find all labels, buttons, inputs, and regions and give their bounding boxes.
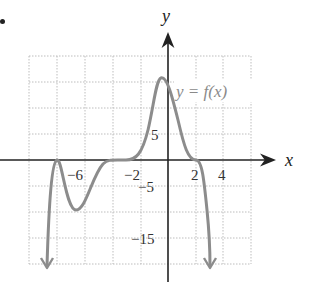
y-tick-label: 5 [151,127,159,143]
x-axis-label: x [284,150,293,170]
y-tick-label: −15 [131,231,154,247]
function-label: y = f(x) [174,82,227,101]
x-tick-label: −6 [67,167,83,183]
function-graph: x y −6 −2 2 4 5 −5 −15 y = f(x) [0,0,310,307]
x-tick-label: 4 [218,167,226,183]
y-axis-label: y [160,6,170,26]
y-tick-label: −5 [138,179,154,195]
x-tick-label: 2 [191,167,199,183]
